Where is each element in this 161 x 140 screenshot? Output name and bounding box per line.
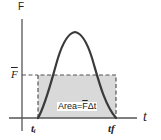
time-axis-label: t (143, 110, 147, 124)
average-force-symbol: F (11, 68, 18, 80)
impulse-diagram (0, 0, 161, 140)
end-time-label: tf (108, 123, 115, 134)
area-label: Area=FΔt (57, 102, 97, 111)
area-label-prefix: Area= (58, 101, 82, 111)
force-axis-label: F (18, 2, 24, 12)
start-time-label: tᵢ (31, 123, 36, 134)
average-force-label: F (11, 69, 18, 80)
area-label-suffix: Δt (88, 101, 97, 111)
